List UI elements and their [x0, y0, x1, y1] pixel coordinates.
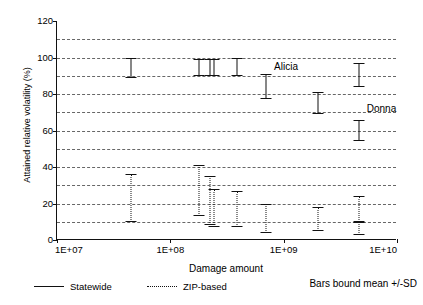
error-bar-cap-bottom: [232, 75, 243, 76]
error-bar-zipbased-3: [208, 189, 220, 227]
error-bar-cap-bottom: [209, 75, 220, 76]
error-bar-stem: [131, 58, 132, 78]
error-bar-cap-bottom: [312, 230, 323, 231]
gridline-y-60: [57, 131, 396, 132]
y-tick-label-60: 60: [42, 126, 53, 136]
legend-label-zip: ZIP-based: [183, 281, 227, 292]
error-bar-statewide-3: [208, 59, 220, 75]
gridline-y-90: [57, 76, 396, 77]
error-bar-zipbased-6: [312, 207, 324, 231]
error-bar-statewide-5: [260, 74, 272, 100]
chart-figure: Attained relative volatility (%) 0204060…: [0, 0, 423, 305]
error-bar-cap-bottom: [194, 215, 205, 216]
error-bar-zipbased-5: [260, 204, 272, 233]
error-bar-cap-bottom: [209, 226, 220, 227]
gridline-y-30: [57, 185, 396, 186]
error-bar-cap-bottom: [312, 113, 323, 114]
y-tick-mark-100: [53, 58, 57, 59]
error-bar-stem: [214, 59, 215, 75]
error-bar-stem: [358, 63, 359, 87]
gridline-y-100: [57, 58, 396, 59]
legend-label-statewide: Statewide: [70, 281, 112, 292]
x-tick-mark-1: [170, 239, 171, 243]
y-tick-label-80: 80: [42, 89, 53, 99]
x-tick-mark-3: [397, 239, 398, 243]
gridline-y-70: [57, 112, 396, 113]
error-bar-statewide-0: [125, 58, 137, 78]
error-bar-cap-bottom: [261, 98, 272, 99]
legend-item-zip: ZIP-based: [147, 281, 227, 292]
x-tick-label-1: 1E+08: [156, 245, 184, 255]
y-tick-label-0: 0: [48, 235, 53, 245]
y-tick-label-20: 20: [42, 199, 53, 209]
gridline-y-80: [57, 94, 396, 95]
error-bar-stem: [214, 189, 215, 227]
error-bar-statewide-7: [353, 63, 365, 87]
y-tick-mark-80: [53, 94, 57, 95]
gridline-y-50: [57, 149, 396, 150]
error-bar-stem: [266, 204, 267, 233]
error-bar-zipbased-4: [231, 191, 243, 228]
x-tick-label-2: 1E+09: [270, 245, 298, 255]
annotation-alicia: Alicia: [274, 61, 298, 72]
error-bar-stem: [131, 174, 132, 221]
error-bar-cap-bottom: [126, 77, 137, 78]
error-bar-stem: [358, 196, 359, 222]
error-bar-zipbased-8: [353, 222, 365, 235]
y-tick-mark-60: [53, 131, 57, 132]
error-bar-cap-bottom: [261, 232, 272, 233]
x-axis-title: Damage amount: [56, 263, 396, 274]
error-bar-stem: [199, 165, 200, 216]
gridline-y-40: [57, 167, 396, 168]
x-tick-label-0: 1E+07: [55, 245, 83, 255]
x-tick-label-3: 1E+10: [369, 245, 397, 255]
error-bar-cap-bottom: [232, 226, 243, 227]
error-bar-stem: [237, 191, 238, 228]
y-tick-label-120: 120: [37, 16, 53, 26]
dotted-line-icon: [147, 286, 177, 287]
legend-item-statewide: Statewide: [34, 281, 112, 292]
error-bar-cap-bottom: [194, 75, 205, 76]
y-tick-mark-120: [53, 21, 57, 22]
y-tick-mark-40: [53, 167, 57, 168]
error-bar-stem: [358, 120, 359, 142]
error-bar-cap-bottom: [353, 140, 364, 141]
gridline-y-20: [57, 204, 396, 205]
plot-area: 0204060801001201E+071E+081E+091E+10Alici…: [56, 21, 396, 240]
legend-note: Bars bound mean +/-SD: [309, 278, 417, 289]
error-bar-cap-bottom: [126, 221, 137, 222]
error-bar-cap-bottom: [353, 86, 364, 87]
solid-line-icon: [34, 286, 64, 287]
x-tick-mark-2: [284, 239, 285, 243]
error-bar-cap-bottom: [353, 234, 364, 235]
error-bar-zipbased-0: [125, 174, 137, 221]
gridline-y-110: [57, 39, 396, 40]
y-tick-label-40: 40: [42, 162, 53, 172]
y-tick-mark-20: [53, 204, 57, 205]
y-axis-title: Attained relative volatility (%): [22, 40, 32, 210]
error-bar-stem: [199, 59, 200, 75]
error-bar-stem: [266, 74, 267, 100]
error-bar-stem: [317, 92, 318, 114]
error-bar-stem: [317, 207, 318, 231]
annotation-donna: Donna: [367, 103, 396, 114]
error-bar-statewide-6: [312, 92, 324, 114]
error-bar-statewide-8: [353, 120, 365, 142]
gridline-y-10: [57, 222, 396, 223]
error-bar-statewide-4: [231, 58, 243, 76]
x-tick-mark-0: [57, 239, 58, 243]
error-bar-stem: [237, 58, 238, 76]
y-tick-label-100: 100: [37, 53, 53, 63]
error-bar-zipbased-7: [353, 196, 365, 222]
chart-legend: Statewide ZIP-based Bars bound mean +/-S…: [0, 278, 423, 300]
